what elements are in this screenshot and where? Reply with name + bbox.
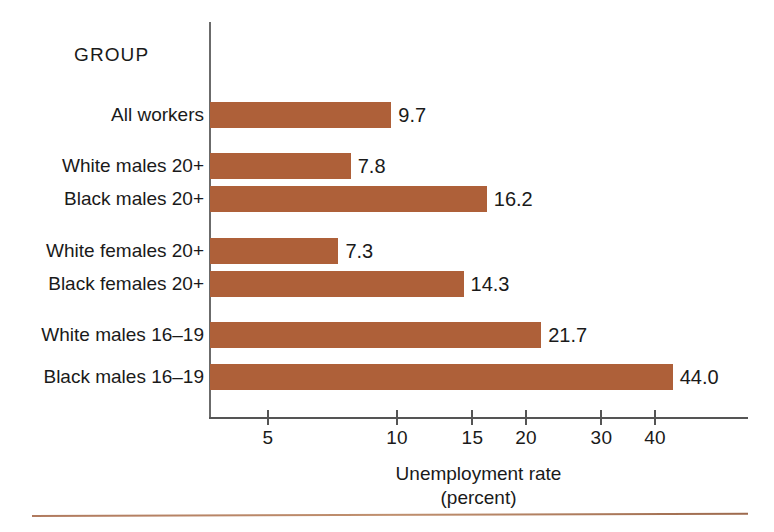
bar-row: All workers9.7 [0, 102, 774, 128]
x-axis-tick-30 [600, 410, 602, 425]
category-label: White males 16–19 [41, 322, 204, 348]
bar-value-label: 44.0 [680, 364, 719, 390]
bar-row: Black males 20+16.2 [0, 186, 774, 212]
bar-row: White males 20+7.8 [0, 153, 774, 179]
category-label: Black males 20+ [64, 186, 204, 212]
bar-value-label: 9.7 [398, 102, 426, 128]
x-axis-tick-40 [654, 410, 656, 425]
category-label: White males 20+ [62, 153, 204, 179]
category-label: Black females 20+ [48, 271, 204, 297]
bar [210, 364, 673, 390]
bar [210, 271, 464, 297]
x-axis-title: Unemployment rate (percent) [209, 462, 748, 510]
x-axis-tick-label-20: 20 [515, 427, 537, 449]
unemployment-rate-bar-chart: GROUP 51015203040 All workers9.7White ma… [0, 0, 774, 532]
bar-row: White males 16–1921.7 [0, 322, 774, 348]
bar-value-label: 7.8 [358, 153, 386, 179]
x-axis-tick-10 [396, 410, 398, 425]
bar-value-label: 21.7 [548, 322, 587, 348]
x-axis-tick-label-15: 15 [462, 427, 484, 449]
x-axis-tick-20 [525, 410, 527, 425]
x-axis-tick-5 [267, 410, 269, 425]
bar-value-label: 16.2 [494, 186, 533, 212]
bar-value-label: 14.3 [471, 271, 510, 297]
bar-row: Black females 20+14.3 [0, 271, 774, 297]
bar [210, 102, 391, 128]
category-label: Black males 16–19 [43, 364, 204, 390]
bar-value-label: 7.3 [345, 238, 373, 264]
category-label: White females 20+ [46, 238, 204, 264]
bar [210, 153, 351, 179]
bar [210, 238, 338, 264]
x-axis-tick-label-30: 30 [591, 427, 613, 449]
x-axis-title-main: Unemployment rate [396, 463, 562, 484]
bar-row: White females 20+7.3 [0, 238, 774, 264]
x-axis-line [209, 417, 748, 419]
category-label: All workers [111, 102, 204, 128]
bar [210, 186, 487, 212]
group-column-header: GROUP [74, 44, 149, 66]
x-axis-tick-15 [471, 410, 473, 425]
x-axis-tick-label-10: 10 [386, 427, 408, 449]
x-axis-tick-label-5: 5 [263, 427, 274, 449]
bar [210, 322, 541, 348]
bar-row: Black males 16–1944.0 [0, 364, 774, 390]
x-axis-tick-label-40: 40 [644, 427, 666, 449]
y-axis-line [209, 22, 211, 419]
bottom-divider-rule [32, 513, 748, 517]
x-axis-title-sub: (percent) [209, 486, 748, 510]
